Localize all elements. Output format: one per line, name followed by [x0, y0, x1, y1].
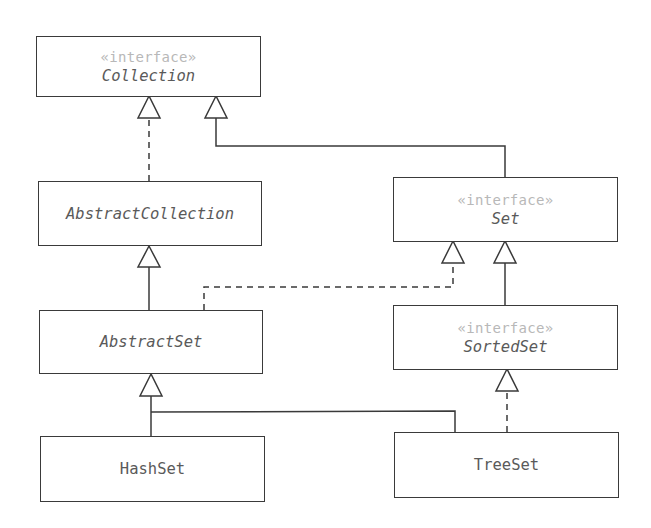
class-name: SortedSet — [464, 337, 548, 357]
hollow-triangle-arrow-icon — [442, 241, 464, 263]
class-box-abstractcollection: AbstractCollection — [38, 181, 262, 246]
hollow-triangle-arrow-icon — [496, 369, 518, 391]
class-name: Collection — [102, 66, 195, 86]
edge-abstractset-to-set — [204, 263, 453, 310]
class-name: TreeSet — [474, 455, 539, 475]
class-name: AbstractCollection — [66, 204, 234, 224]
hollow-triangle-arrow-icon — [205, 96, 227, 118]
hollow-triangle-arrow-icon — [494, 241, 516, 263]
uml-class-diagram: «interface» Collection AbstractCollectio… — [0, 0, 651, 528]
hollow-triangle-arrow-icon — [138, 246, 160, 267]
class-box-sortedset: «interface» SortedSet — [393, 305, 618, 370]
class-box-set: «interface» Set — [393, 177, 618, 242]
class-box-treeset: TreeSet — [394, 432, 619, 498]
hollow-triangle-arrow-icon — [138, 96, 160, 118]
edge-set-to-collection — [216, 118, 505, 177]
class-name: HashSet — [120, 459, 185, 479]
class-box-hashset: HashSet — [40, 436, 265, 502]
stereotype-label: «interface» — [100, 48, 196, 66]
edge-treeset-to-abstractset — [151, 411, 455, 432]
stereotype-label: «interface» — [457, 319, 553, 337]
class-box-abstractset: AbstractSet — [39, 310, 263, 374]
hollow-triangle-arrow-icon — [140, 374, 162, 396]
stereotype-label: «interface» — [457, 191, 553, 209]
class-name: Set — [492, 209, 520, 229]
class-name: AbstractSet — [100, 332, 203, 352]
class-box-collection: «interface» Collection — [36, 36, 261, 97]
